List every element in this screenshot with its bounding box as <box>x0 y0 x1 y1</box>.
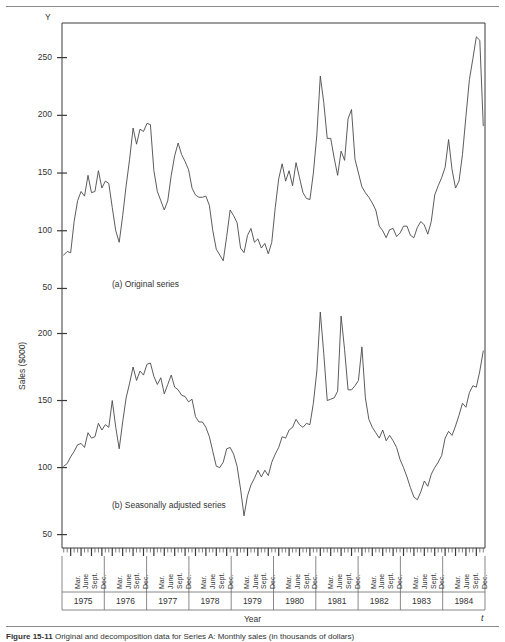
month-tick-label: Sept. <box>91 573 98 589</box>
chart-canvas <box>0 0 505 642</box>
month-tick-label: Mar. <box>200 575 207 589</box>
month-tick-label: Sept. <box>176 573 183 589</box>
month-tick-label: June <box>463 574 470 589</box>
month-tick-label: June <box>378 574 385 589</box>
month-tick-label: Mar. <box>454 575 461 589</box>
y-tick-label: 100 <box>18 225 52 235</box>
year-label: 1982 <box>358 596 400 606</box>
x-tick-marks <box>64 548 484 556</box>
year-label: 1983 <box>400 596 442 606</box>
month-tick-label: June <box>421 574 428 589</box>
month-tick-label: June <box>209 574 216 589</box>
month-tick-label: Sept. <box>218 573 225 589</box>
month-tick-label: Mar. <box>116 575 123 589</box>
month-tick-label: June <box>252 574 259 589</box>
y-tick-label: 200 <box>18 328 52 338</box>
month-tick-label: June <box>125 574 132 589</box>
x-axis-title: Year <box>0 614 505 624</box>
y-tick-label: 50 <box>18 282 52 292</box>
month-tick-label: Mar. <box>243 575 250 589</box>
year-label: 1976 <box>104 596 146 606</box>
series-lines <box>64 37 484 516</box>
year-label: 1980 <box>274 596 316 606</box>
month-tick-label: June <box>167 574 174 589</box>
month-tick-label: Dec. <box>269 575 276 589</box>
month-tick-label: Dec. <box>354 575 361 589</box>
figure-caption: Figure 15-11 Original and decomposition … <box>6 632 499 642</box>
year-label: 1979 <box>231 596 273 606</box>
month-tick-label: Mar. <box>412 575 419 589</box>
month-tick-label: Sept. <box>387 573 394 589</box>
month-tick-label: Mar. <box>285 575 292 589</box>
year-label: 1981 <box>316 596 358 606</box>
panel-b-label: (b) Seasonally adjusted series <box>112 500 226 510</box>
month-tick-label: Sept. <box>430 573 437 589</box>
month-tick-label: Sept. <box>345 573 352 589</box>
month-tick-label: Dec. <box>227 575 234 589</box>
month-tick-label: Mar. <box>74 575 81 589</box>
month-tick-label: Dec. <box>100 575 107 589</box>
x-axis-symbol: t <box>481 613 484 623</box>
month-tick-label: Sept. <box>133 573 140 589</box>
bottom-rule <box>6 626 499 627</box>
year-label: 1978 <box>189 596 231 606</box>
y-tick-label: 50 <box>18 529 52 539</box>
year-label: 1984 <box>443 596 485 606</box>
month-tick-label: Dec. <box>311 575 318 589</box>
month-tick-label: June <box>336 574 343 589</box>
y-tick-label: 150 <box>18 167 52 177</box>
month-tick-label: Dec. <box>185 575 192 589</box>
caption-number: Figure 15-11 <box>6 632 53 641</box>
year-label: 1975 <box>62 596 104 606</box>
year-label: 1977 <box>147 596 189 606</box>
figure-container: Sales ($000) Y 2502001501005020015010050… <box>0 0 505 642</box>
month-tick-label: Dec. <box>142 575 149 589</box>
month-tick-label: Dec. <box>481 575 488 589</box>
month-tick-label: Sept. <box>472 573 479 589</box>
month-tick-label: June <box>82 574 89 589</box>
y-tick-label: 250 <box>18 52 52 62</box>
series-original <box>64 37 484 261</box>
month-tick-label: Dec. <box>438 575 445 589</box>
series-seasonally-adjusted <box>64 312 484 516</box>
y-tick-label: 100 <box>18 462 52 472</box>
caption-text: Original and decomposition data for Seri… <box>55 632 354 641</box>
month-tick-label: Mar. <box>327 575 334 589</box>
y-tick-label: 150 <box>18 395 52 405</box>
y-tick-label: 200 <box>18 109 52 119</box>
month-tick-label: Sept. <box>303 573 310 589</box>
month-tick-label: Sept. <box>260 573 267 589</box>
month-tick-label: Mar. <box>370 575 377 589</box>
panel-a-label: (a) Original series <box>112 279 179 289</box>
month-tick-label: June <box>294 574 301 589</box>
month-tick-label: Mar. <box>158 575 165 589</box>
month-tick-label: Dec. <box>396 575 403 589</box>
